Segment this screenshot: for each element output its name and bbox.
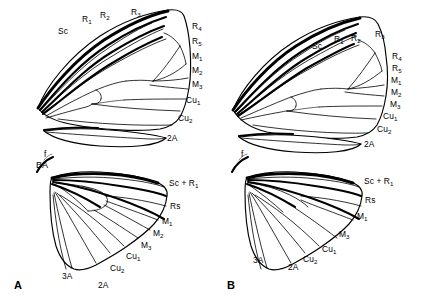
wing-venation-figure: Sc R1 R2 R3 R4 R5 M1 M2 M3 Cu1 Cu2 2A f … (0, 0, 440, 306)
label-a-forewing-cu1: Cu1 (186, 96, 200, 104)
label-b-hindwing-m3: M3 (339, 230, 350, 238)
label-b-hindwing-f: f (241, 150, 243, 158)
label-a-hindwing-m1: M1 (162, 217, 173, 225)
label-a-hindwing-rs: Rs (170, 202, 180, 210)
label-b-hindwing-m1: M1 (357, 212, 368, 220)
label-b-forewing-cu1: Cu1 (383, 112, 397, 120)
label-b-hindwing-sc-r1: Sc + R1 (364, 177, 394, 185)
panel-b-forewing (233, 17, 388, 153)
label-b-hindwing-cu1: Cu1 (322, 245, 336, 253)
label-a-hindwing-cu1: Cu1 (126, 252, 140, 260)
label-b-hindwing-3a: 3A (253, 256, 263, 264)
label-a-hindwing-sc-r1: Sc + R1 (169, 179, 199, 187)
label-a-forewing-r5: R5 (192, 37, 202, 45)
label-a-forewing-r2: R2 (100, 11, 110, 19)
label-a-hindwing-ba: BA (36, 161, 48, 170)
label-a-hindwing-m2: M2 (153, 229, 164, 237)
label-a-forewing-cu2: Cu2 (178, 114, 192, 122)
label-a-hindwing-m3: M3 (141, 241, 152, 249)
venation-drawing (0, 0, 440, 306)
label-b-forewing-r3: R3 (375, 30, 385, 38)
label-b-forewing-m1: M1 (391, 76, 402, 84)
label-a-forewing-r1: R1 (82, 15, 92, 23)
label-a-forewing-r4: R4 (192, 22, 202, 30)
label-b-forewing-r2: R2 (351, 34, 361, 42)
label-b-hindwing-cu2: Cu2 (303, 255, 317, 263)
panel-letter-b: B (227, 279, 235, 291)
label-b-forewing-cu2: Cu2 (377, 125, 391, 133)
panel-a-hindwing (37, 154, 167, 270)
panel-letter-a: A (14, 279, 22, 291)
label-a-hindwing-cu2: Cu2 (110, 264, 124, 272)
label-a-forewing-m2: M2 (192, 66, 203, 74)
label-b-forewing-sc: Sc (312, 42, 322, 50)
panel-b-hindwing (232, 154, 362, 270)
label-b-forewing-2a: 2A (364, 140, 374, 148)
label-b-hindwing-2a: 2A (288, 263, 298, 271)
label-b-forewing-r5: R5 (392, 64, 402, 72)
label-a-forewing-m3: M3 (192, 80, 203, 88)
label-b-forewing-r4: R4 (392, 52, 402, 60)
label-a-hindwing-3a: 3A (62, 272, 72, 280)
label-b-forewing-m3: M3 (390, 100, 401, 108)
label-a-forewing-m1: M1 (192, 52, 203, 60)
label-a-forewing-r3: R3 (131, 8, 141, 16)
label-b-forewing-r1: R1 (334, 35, 344, 43)
label-a-forewing-sc: Sc (58, 27, 68, 35)
label-a-forewing-2a: 2A (167, 134, 177, 142)
label-a-hindwing-2a: 2A (98, 281, 108, 289)
label-b-hindwing-rs: Rs (365, 196, 375, 204)
label-a-hindwing-f: f (44, 150, 46, 158)
label-b-forewing-m2: M2 (391, 88, 402, 96)
